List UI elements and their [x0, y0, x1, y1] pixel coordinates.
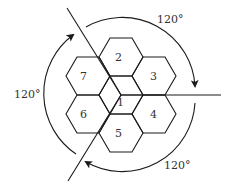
- cell-label-3: 3: [150, 70, 157, 83]
- arc-arrow-left: [44, 35, 76, 154]
- cell-label-5: 5: [115, 127, 122, 140]
- cell-label-1: 1: [117, 96, 124, 109]
- hex-cell-6: [66, 95, 110, 133]
- angle-label-top-right: 120°: [157, 13, 184, 26]
- angle-label-left: 120°: [14, 88, 41, 101]
- cell-label-2: 2: [115, 51, 122, 64]
- cell-label-4: 4: [150, 108, 157, 121]
- sector-line-lower-left: [68, 95, 121, 181]
- angle-labels: 120° 120° 120°: [14, 13, 191, 172]
- sector-line-upper-left: [67, 8, 121, 95]
- hexagon-rotation-diagram: 1 2 3 4 5 6 7 120° 120° 120°: [0, 0, 231, 194]
- cell-label-6: 6: [80, 108, 87, 121]
- hex-cell-7: [66, 57, 110, 95]
- cell-label-7: 7: [80, 70, 87, 83]
- angle-label-bottom-right: 120°: [164, 159, 191, 172]
